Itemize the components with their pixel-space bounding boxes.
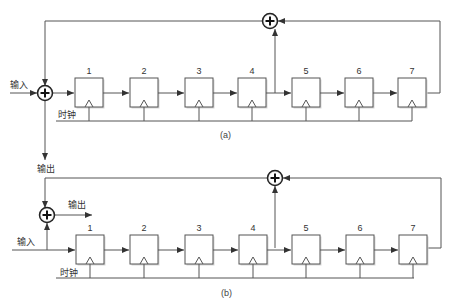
register-2: 2 [130,223,184,278]
register-3: 3 [185,223,238,278]
register-label: 5 [303,66,308,76]
register-label: 2 [141,223,146,233]
register-label: 4 [249,66,254,76]
register-box [75,78,103,107]
input-label-a: 输入 [10,79,28,90]
caption-b: (b) [221,288,232,298]
register-label: 1 [87,223,92,233]
register-4: 4 [239,223,291,278]
xor-gate-left-b [40,208,55,223]
register-box [239,235,267,264]
output-label-b: 输出 [68,199,86,210]
lfsr-diagrams: 输入 输出 时钟 1234567 (a) 输入 [0,0,452,305]
register-chain-a: 1234567 [75,66,428,121]
register-1: 1 [75,66,129,121]
input-label-b: 输入 [17,236,35,247]
register-4: 4 [238,66,291,121]
register-label: 6 [356,66,361,76]
register-box [238,78,266,107]
register-box [130,235,158,264]
register-1: 1 [76,223,129,278]
register-label: 6 [357,223,362,233]
register-label: 1 [86,66,91,76]
register-box [76,235,104,264]
register-label: 4 [250,223,255,233]
register-7: 7 [398,66,428,121]
register-label: 5 [303,223,308,233]
register-box [130,78,158,107]
register-6: 6 [345,66,397,121]
register-5: 5 [292,223,345,278]
register-box [345,78,373,107]
register-box [185,78,213,107]
register-5: 5 [292,66,344,121]
clock-label-a: 时钟 [58,109,76,120]
diagram-a: 输入 输出 时钟 1234567 (a) [10,14,440,175]
register-box [398,78,426,107]
output-label-a: 输出 [37,163,55,174]
register-box [185,235,213,264]
register-box [346,235,374,264]
register-box [292,78,320,107]
register-box [399,235,427,264]
register-7: 7 [399,223,429,278]
xor-gate-left-a [38,86,53,101]
register-label: 7 [410,223,415,233]
register-label: 2 [141,66,146,76]
xor-gate-top-a [263,14,278,29]
register-chain-b: 1234567 [76,223,429,278]
register-2: 2 [130,66,184,121]
register-label: 7 [409,66,414,76]
clock-label-b: 时钟 [60,267,78,278]
register-label: 3 [196,223,201,233]
register-box [292,235,320,264]
diagram-b: 输入 输出 时钟 1234567 (b) [12,171,441,299]
register-6: 6 [346,223,398,278]
xor-gate-top-b [268,171,283,186]
register-label: 3 [196,66,201,76]
register-3: 3 [185,66,237,121]
caption-a: (a) [220,130,231,140]
